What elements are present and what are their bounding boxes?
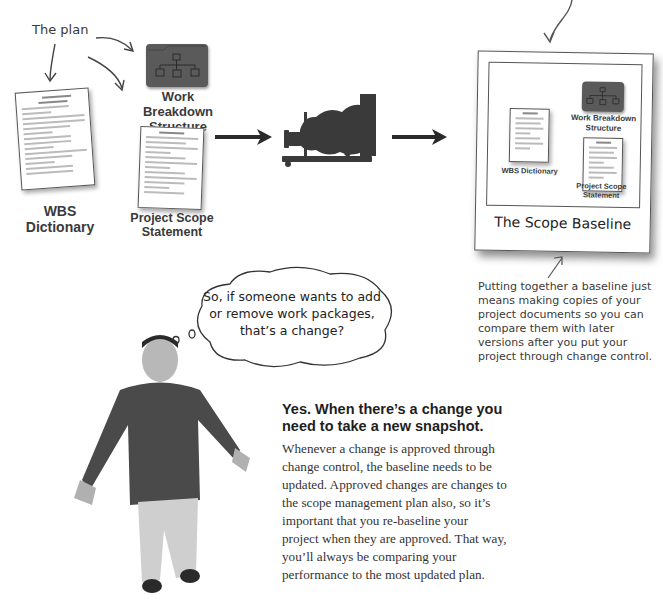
snapshot-title: The Scope Baseline — [476, 213, 650, 232]
note-arrow — [540, 252, 570, 282]
wbs-hierarchy-icon — [146, 44, 208, 87]
curved-arrow-down — [530, 0, 580, 45]
snapshot-wbs-label: Work Breakdown Structure — [567, 113, 639, 134]
folder-icon — [146, 44, 208, 87]
scope-baseline-snapshot: WBS Dictionary Work Breakdown Structure … — [474, 50, 653, 253]
project-scope-statement-label: Project Scope Statement — [128, 211, 216, 239]
baseline-note: Putting together a baseline just means m… — [478, 280, 660, 364]
snapshot-project-scope-statement-label: Project Scope Statement — [568, 181, 634, 200]
snapshot-wbs-dictionary-document — [509, 108, 550, 163]
project-scope-statement-document — [138, 126, 205, 210]
person-illustration — [60, 330, 260, 600]
arrow-right-icon — [255, 127, 275, 147]
wbs-dictionary-document — [15, 88, 96, 191]
answer-heading: Yes. When there’s a change you need to t… — [282, 401, 522, 435]
snapshot-folder-icon — [582, 81, 625, 112]
wbs-dictionary-label: WBS Dictionary — [10, 203, 110, 235]
arrow-right-icon — [430, 127, 450, 147]
answer-body: Whenever a change is approved through ch… — [282, 440, 507, 584]
camera-icon — [282, 92, 382, 170]
snapshot-wbs-dictionary-label: WBS Dictionary — [495, 166, 565, 176]
